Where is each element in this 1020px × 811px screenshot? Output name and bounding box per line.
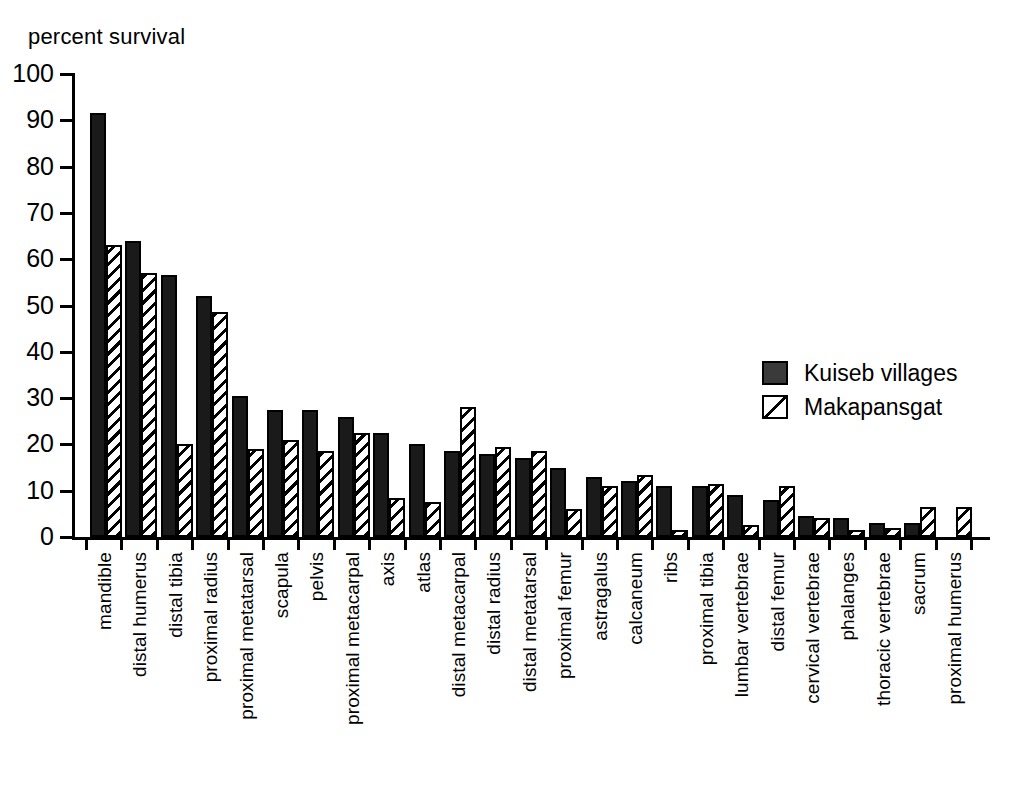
x-tick-23 xyxy=(899,537,902,550)
bar-pelvis-kuiseb xyxy=(302,410,318,537)
bar-distal-tibia-kuiseb xyxy=(161,275,177,537)
bar-astragalus-makapansgat xyxy=(602,486,618,537)
bar-sacrum-kuiseb xyxy=(904,523,920,537)
y-tick-label-50: 50 xyxy=(0,293,54,318)
y-tick-label-20: 20 xyxy=(0,431,54,456)
x-tick-16 xyxy=(651,537,654,550)
x-label-scapula: scapula xyxy=(272,552,291,618)
bar-distal-radius-kuiseb xyxy=(479,454,495,537)
bar-sacrum-makapansgat xyxy=(920,507,936,537)
chart-legend: Kuiseb villagesMakapansgat xyxy=(762,358,957,426)
legend-label-0: Kuiseb villages xyxy=(804,362,957,385)
x-tick-12 xyxy=(510,537,513,550)
x-tick-4 xyxy=(227,537,230,550)
bar-atlas-kuiseb xyxy=(409,444,425,537)
x-tick-5 xyxy=(262,537,265,550)
x-label-distal-metatarsal: distal metatarsal xyxy=(520,552,539,692)
bar-ribs-kuiseb xyxy=(656,486,672,537)
bar-lumbar-vertebrae-makapansgat xyxy=(743,525,759,537)
y-tick-label-30: 30 xyxy=(0,385,54,410)
bar-cervical-vertebrae-kuiseb xyxy=(798,516,814,537)
bar-distal-metacarpal-kuiseb xyxy=(444,451,460,537)
x-label-proximal-humerus: proximal humerus xyxy=(945,552,964,705)
bar-proximal-metacarpal-makapansgat xyxy=(354,433,370,537)
x-label-proximal-radius: proximal radius xyxy=(201,552,220,682)
y-tick-label-100: 100 xyxy=(0,61,54,86)
x-label-calcaneum: calcaneum xyxy=(626,552,645,645)
x-label-proximal-femur: proximal femur xyxy=(555,552,574,679)
x-tick-21 xyxy=(828,537,831,550)
x-label-phalanges: phalanges xyxy=(838,552,857,641)
x-label-distal-tibia: distal tibia xyxy=(166,552,185,638)
x-label-pelvis: pelvis xyxy=(307,552,326,601)
bar-axis-kuiseb xyxy=(373,433,389,537)
x-tick-20 xyxy=(793,537,796,550)
bar-lumbar-vertebrae-kuiseb xyxy=(727,495,743,537)
bar-thoracic-vertebrae-makapansgat xyxy=(885,528,901,537)
x-label-distal-femur: distal femur xyxy=(768,552,787,651)
x-tick-end xyxy=(970,537,973,550)
bar-scapula-kuiseb xyxy=(267,410,283,537)
bar-proximal-radius-makapansgat xyxy=(212,312,228,537)
bar-distal-metatarsal-makapansgat xyxy=(531,451,547,537)
x-tick-0 xyxy=(85,537,88,550)
x-label-astragalus: astragalus xyxy=(591,552,610,641)
plot-area xyxy=(72,74,990,537)
bar-distal-femur-kuiseb xyxy=(763,500,779,537)
bar-proximal-femur-makapansgat xyxy=(566,509,582,537)
x-label-sacrum: sacrum xyxy=(909,552,928,615)
x-axis-line xyxy=(72,537,990,540)
x-label-proximal-metacarpal: proximal metacarpal xyxy=(343,552,362,725)
x-tick-10 xyxy=(439,537,442,550)
bar-proximal-tibia-kuiseb xyxy=(692,486,708,537)
x-label-mandible: mandible xyxy=(95,552,114,630)
bar-proximal-metatarsal-makapansgat xyxy=(248,449,264,537)
x-label-proximal-metatarsal: proximal metatarsal xyxy=(237,552,256,720)
bar-atlas-makapansgat xyxy=(425,502,441,537)
x-label-cervical-vertebrae: cervical vertebrae xyxy=(803,552,822,704)
bar-mandible-kuiseb xyxy=(90,113,106,537)
bar-proximal-tibia-makapansgat xyxy=(708,484,724,537)
bar-astragalus-kuiseb xyxy=(586,477,602,537)
x-label-proximal-tibia: proximal tibia xyxy=(697,552,716,665)
bar-proximal-femur-kuiseb xyxy=(550,468,566,537)
x-tick-9 xyxy=(404,537,407,550)
x-tick-17 xyxy=(687,537,690,550)
x-label-ribs: ribs xyxy=(661,552,680,583)
bar-distal-femur-makapansgat xyxy=(779,486,795,537)
legend-label-1: Makapansgat xyxy=(804,396,942,419)
y-tick-label-70: 70 xyxy=(0,200,54,225)
bar-phalanges-kuiseb xyxy=(833,518,849,537)
bar-distal-humerus-kuiseb xyxy=(125,241,141,537)
bar-scapula-makapansgat xyxy=(283,440,299,537)
bar-distal-radius-makapansgat xyxy=(495,447,511,537)
legend-item-0: Kuiseb villages xyxy=(762,358,957,388)
y-tick-label-0: 0 xyxy=(0,524,54,549)
x-tick-14 xyxy=(581,537,584,550)
bar-distal-tibia-makapansgat xyxy=(177,444,193,537)
x-tick-2 xyxy=(156,537,159,550)
x-label-thoracic-vertebrae: thoracic vertebrae xyxy=(874,552,893,706)
x-tick-19 xyxy=(758,537,761,550)
x-tick-11 xyxy=(474,537,477,550)
x-label-distal-humerus: distal humerus xyxy=(130,552,149,677)
x-tick-13 xyxy=(545,537,548,550)
bar-thoracic-vertebrae-kuiseb xyxy=(869,523,885,537)
x-tick-22 xyxy=(864,537,867,550)
bar-proximal-humerus-makapansgat xyxy=(956,507,972,537)
x-tick-3 xyxy=(191,537,194,550)
x-tick-1 xyxy=(120,537,123,550)
x-tick-6 xyxy=(297,537,300,550)
x-tick-18 xyxy=(722,537,725,550)
legend-item-1: Makapansgat xyxy=(762,392,957,422)
bar-phalanges-makapansgat xyxy=(849,530,865,537)
bar-axis-makapansgat xyxy=(389,498,405,537)
x-tick-8 xyxy=(368,537,371,550)
x-label-axis: axis xyxy=(378,552,397,586)
bar-calcaneum-kuiseb xyxy=(621,481,637,537)
x-tick-24 xyxy=(935,537,938,550)
bar-distal-humerus-makapansgat xyxy=(141,273,157,537)
bar-proximal-metatarsal-kuiseb xyxy=(232,396,248,537)
bar-ribs-makapansgat xyxy=(672,530,688,537)
x-label-distal-metacarpal: distal metacarpal xyxy=(449,552,468,697)
